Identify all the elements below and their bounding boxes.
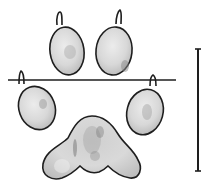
toe-pad-top-left <box>47 12 87 77</box>
paw-track-drawing <box>0 0 208 188</box>
toe-pad-top-right <box>94 10 135 77</box>
claw-icon <box>57 12 62 25</box>
toe-pad-outer-right <box>122 75 169 139</box>
heel-pad <box>43 116 141 179</box>
paw-track-figure <box>0 0 208 188</box>
claw-icon <box>116 10 121 24</box>
scale-bar <box>195 49 201 171</box>
claw-icon <box>19 71 24 84</box>
